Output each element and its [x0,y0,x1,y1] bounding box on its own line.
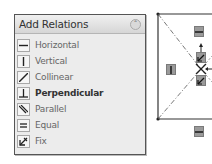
vertical-relation-badge[interactable] [166,64,176,75]
fix-relation-badge[interactable] [196,75,206,86]
sketch-canvas [0,0,212,164]
fix-relation-badge[interactable] [196,52,206,63]
horizontal-relation-badge[interactable] [194,126,204,137]
horizontal-relation-badge[interactable] [194,26,204,37]
